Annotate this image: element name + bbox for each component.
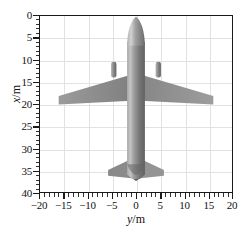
x-tick-minor bbox=[180, 193, 181, 197]
y-tick-minor bbox=[36, 131, 40, 132]
y-axis-label-variable: x bbox=[9, 98, 23, 103]
x-tick-minor bbox=[117, 193, 118, 197]
x-tick-minor bbox=[223, 193, 224, 197]
y-tick-minor bbox=[36, 189, 40, 190]
right-wing bbox=[136, 73, 213, 104]
plot-area bbox=[39, 15, 233, 193]
y-tick-minor bbox=[36, 100, 40, 101]
x-tick-minor bbox=[194, 193, 195, 197]
y-tick-minor bbox=[36, 162, 40, 163]
aircraft-planform-figure: 0 5 10 15 20 25 30 35 40 −20 −15 −10 −5 … bbox=[0, 0, 245, 233]
y-tick-minor bbox=[36, 55, 40, 56]
x-tick-minor bbox=[126, 193, 127, 197]
y-tick-label: 40 bbox=[6, 188, 32, 199]
x-tick-minor bbox=[92, 193, 93, 197]
y-tick-minor bbox=[36, 51, 40, 52]
y-tick-minor bbox=[36, 184, 40, 185]
y-tick-minor bbox=[36, 19, 40, 20]
y-tick-major bbox=[33, 37, 39, 38]
y-tick-minor bbox=[36, 77, 40, 78]
fuselage-body bbox=[127, 42, 145, 180]
y-tick-minor bbox=[36, 153, 40, 154]
x-tick-minor bbox=[165, 193, 166, 197]
y-tick-minor bbox=[36, 33, 40, 34]
y-tick-label: 0 bbox=[6, 10, 32, 21]
x-tick-minor bbox=[49, 193, 50, 197]
aircraft-silhouette bbox=[40, 16, 232, 192]
x-tick-minor bbox=[107, 193, 108, 197]
left-wing bbox=[59, 73, 136, 104]
y-tick-major bbox=[33, 104, 39, 105]
y-tick-minor bbox=[36, 42, 40, 43]
x-tick-minor bbox=[131, 193, 132, 197]
y-tick-minor bbox=[36, 180, 40, 181]
y-tick-label: 30 bbox=[6, 144, 32, 155]
y-tick-minor bbox=[36, 64, 40, 65]
x-tick-minor bbox=[141, 193, 142, 197]
y-tick-label: 5 bbox=[6, 32, 32, 43]
x-tick-minor bbox=[146, 193, 147, 197]
x-tick-minor bbox=[204, 193, 205, 197]
y-tick-minor bbox=[36, 68, 40, 69]
x-tick-minor bbox=[214, 193, 215, 197]
y-tick-minor bbox=[36, 122, 40, 123]
x-tick-minor bbox=[151, 193, 152, 197]
y-tick-minor bbox=[36, 144, 40, 145]
x-tick-minor bbox=[155, 193, 156, 197]
y-tick-minor bbox=[36, 86, 40, 87]
x-tick-minor bbox=[54, 193, 55, 197]
y-tick-major bbox=[33, 171, 39, 172]
y-tick-major bbox=[33, 82, 39, 83]
y-tick-major bbox=[33, 15, 39, 16]
y-tick-minor bbox=[36, 166, 40, 167]
x-tick-minor bbox=[78, 193, 79, 197]
x-tick-label: 20 bbox=[215, 200, 245, 211]
y-tick-minor bbox=[36, 91, 40, 92]
x-tick-minor bbox=[228, 193, 229, 197]
y-tick-minor bbox=[36, 175, 40, 176]
right-engine-nacelle bbox=[156, 62, 161, 78]
x-tick-minor bbox=[83, 193, 84, 197]
x-tick-minor bbox=[170, 193, 171, 197]
y-tick-minor bbox=[36, 28, 40, 29]
y-tick-minor bbox=[36, 140, 40, 141]
x-axis-label: y/m bbox=[39, 213, 233, 225]
x-tick-minor bbox=[68, 193, 69, 197]
y-tick-label: 35 bbox=[6, 166, 32, 177]
x-tick-minor bbox=[175, 193, 176, 197]
x-tick-minor bbox=[121, 193, 122, 197]
x-tick-minor bbox=[97, 193, 98, 197]
y-tick-minor bbox=[36, 46, 40, 47]
y-axis-label: x/m bbox=[10, 64, 22, 124]
x-tick-minor bbox=[199, 193, 200, 197]
y-tick-major bbox=[33, 60, 39, 61]
y-tick-minor bbox=[36, 117, 40, 118]
left-engine-nacelle bbox=[111, 62, 116, 78]
y-tick-major bbox=[33, 126, 39, 127]
x-tick-minor bbox=[58, 193, 59, 197]
x-tick-minor bbox=[44, 193, 45, 197]
y-tick-minor bbox=[36, 157, 40, 158]
nose-cone bbox=[127, 17, 145, 46]
x-tick-minor bbox=[102, 193, 103, 197]
y-axis-label-unit: /m bbox=[9, 85, 23, 98]
y-tick-minor bbox=[36, 73, 40, 74]
y-tick-minor bbox=[36, 24, 40, 25]
x-axis-label-unit: /m bbox=[132, 212, 145, 226]
y-tick-minor bbox=[36, 108, 40, 109]
y-tick-minor bbox=[36, 95, 40, 96]
x-tick-minor bbox=[218, 193, 219, 197]
x-tick-minor bbox=[189, 193, 190, 197]
y-tick-minor bbox=[36, 113, 40, 114]
y-tick-minor bbox=[36, 135, 40, 136]
x-tick-minor bbox=[73, 193, 74, 197]
y-tick-major bbox=[33, 149, 39, 150]
